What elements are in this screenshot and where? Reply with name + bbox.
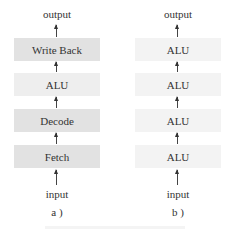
arrow-up-icon xyxy=(177,25,178,37)
diagram-a: output Write Back ALU Decode Fetch input… xyxy=(14,0,100,234)
arrow-up-icon xyxy=(56,170,57,185)
caption-a: a ) xyxy=(14,206,100,218)
stage-alu-3: ALU xyxy=(135,109,221,132)
arrow-up-icon xyxy=(177,133,178,144)
output-label: output xyxy=(14,8,100,20)
diagram-b: output ALU ALU ALU ALU input b ) xyxy=(135,0,221,234)
arrow-up-icon xyxy=(56,133,57,144)
stage-decode: Decode xyxy=(14,109,100,132)
arrow-up-icon xyxy=(177,170,178,185)
arrow-up-icon xyxy=(177,97,178,108)
stage-alu-4: ALU xyxy=(135,145,221,168)
figure-caption-faint xyxy=(45,226,185,229)
stage-fetch: Fetch xyxy=(14,145,100,168)
stage-alu: ALU xyxy=(14,73,100,96)
stage-alu-2: ALU xyxy=(135,73,221,96)
stage-write-back: Write Back xyxy=(14,38,100,61)
arrow-up-icon xyxy=(56,62,57,72)
stage-alu-1: ALU xyxy=(135,38,221,61)
arrow-up-icon xyxy=(177,62,178,72)
caption-b: b ) xyxy=(135,206,221,218)
output-label: output xyxy=(135,8,221,20)
input-label: input xyxy=(135,188,221,200)
input-label: input xyxy=(14,188,100,200)
arrow-up-icon xyxy=(56,25,57,37)
arrow-up-icon xyxy=(56,97,57,108)
